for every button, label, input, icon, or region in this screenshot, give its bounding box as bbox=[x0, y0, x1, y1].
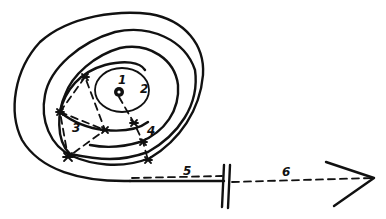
label-4: 4 bbox=[146, 124, 155, 138]
label-2: 2 bbox=[140, 82, 148, 96]
label-5: 5 bbox=[183, 164, 191, 178]
break-mark-left bbox=[222, 165, 224, 207]
continuation-dashed-line bbox=[232, 178, 372, 182]
exit-dashed-upper bbox=[132, 176, 222, 178]
center-dot-hole bbox=[117, 90, 120, 93]
spiral-diagram: 1 2 3 4 5 6 bbox=[0, 0, 386, 219]
arrowhead-icon bbox=[326, 162, 374, 206]
label-3: 3 bbox=[72, 121, 80, 135]
label-1: 1 bbox=[118, 73, 126, 87]
search-leg-dashed-3 bbox=[60, 112, 105, 130]
break-mark-right bbox=[228, 165, 230, 208]
outer-spiral-loop bbox=[15, 13, 203, 181]
label-6: 6 bbox=[282, 165, 290, 179]
